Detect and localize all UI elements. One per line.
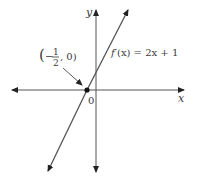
svg-text:1: 1 [53, 47, 59, 57]
x-intercept-point [84, 87, 89, 92]
point-label: ( − 1 2 , 0) [39, 46, 77, 68]
function-line-lower [48, 90, 87, 171]
x-axis-label: x [178, 92, 185, 105]
function-label: f′(x) = 2x + 1 [110, 47, 178, 58]
svg-text:(: ( [39, 46, 45, 64]
y-axis-label: y [85, 6, 93, 19]
graph-canvas: y x 0 f′(x) = 2x + 1 ( − 1 2 , 0) [0, 0, 198, 184]
origin-label: 0 [88, 95, 94, 106]
svg-text:, 0): , 0) [60, 51, 77, 62]
svg-text:2: 2 [53, 58, 59, 68]
callout-arrow [63, 68, 82, 85]
